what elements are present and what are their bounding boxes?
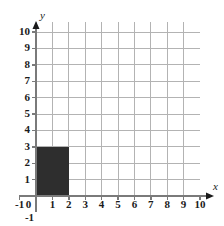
x-tick-label--1: -1 [12,199,28,210]
x-axis-label: x [213,181,218,192]
x-tick-label-10: 10 [192,199,208,210]
x-tick-label-3: 3 [77,199,93,210]
y-tick-label-3: 3 [6,141,30,152]
y-tick-label-6: 6 [6,92,30,103]
x-tick-label-4: 4 [94,199,110,210]
shaded-rectangle [36,147,69,196]
y-tick-label-7: 7 [6,75,30,86]
y-tick-label-4: 4 [6,124,30,135]
x-tick-label-8: 8 [159,199,175,210]
plot-area [36,22,200,196]
x-tick-label-7: 7 [143,199,159,210]
y-axis-label: y [40,10,45,21]
y-tick-label-1: 1 [6,174,30,185]
y-tick-label-9: 9 [6,42,30,53]
y-tick-label-10: 10 [6,26,30,37]
x-tick-label-2: 2 [61,199,77,210]
coordinate-grid-figure: 123456789100-1-112345678910 y x [0,0,224,226]
x-tick-label-6: 6 [126,199,142,210]
y-tick-label-2: 2 [6,157,30,168]
y-tick-label-8: 8 [6,59,30,70]
y-tick-label--1: -1 [24,212,35,223]
x-tick-label-1: 1 [44,199,60,210]
x-tick-label-9: 9 [176,199,192,210]
y-tick-label-5: 5 [6,108,30,119]
x-tick-label-5: 5 [110,199,126,210]
